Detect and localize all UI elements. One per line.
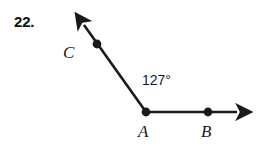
ray-ac-line [84, 25, 146, 112]
point-a-dot [142, 108, 151, 117]
angle-diagram-svg [0, 0, 261, 168]
point-label-a: A [138, 123, 148, 140]
point-label-b: B [201, 123, 211, 140]
point-b-dot [204, 108, 213, 117]
point-c-dot [93, 40, 102, 49]
angle-measure-label: 127° [142, 73, 171, 87]
point-label-c: C [63, 44, 74, 61]
figure-page: 22. C A B 127° [0, 0, 261, 168]
